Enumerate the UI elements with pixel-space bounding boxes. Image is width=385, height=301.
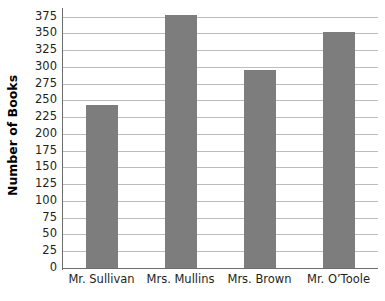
- x-tick-label: Mr. Sullivan: [68, 274, 134, 286]
- y-tick-label: 300: [35, 61, 57, 73]
- x-tick-label: Mr. O’Toole: [307, 274, 370, 286]
- y-tick-label: 0: [50, 262, 57, 274]
- y-axis-title-text: Number of Books: [6, 74, 21, 195]
- x-tick-label: Mrs. Mullins: [146, 274, 214, 286]
- plot-area: [62, 10, 378, 268]
- y-tick-label: 250: [35, 95, 57, 107]
- y-tick-label: 25: [42, 245, 57, 257]
- y-tick-label: 325: [35, 44, 57, 56]
- y-tick-label: 375: [35, 11, 57, 23]
- bar: [244, 70, 276, 268]
- y-tick-label: 275: [35, 78, 57, 90]
- y-axis-tick-labels: 0255075100125150175200225250275300325350…: [26, 0, 60, 301]
- y-tick-label: 100: [35, 195, 57, 207]
- x-axis-tick-labels: Mr. SullivanMrs. MullinsMrs. BrownMr. O’…: [62, 272, 378, 296]
- x-tick-label: Mrs. Brown: [227, 274, 291, 286]
- y-tick-label: 75: [42, 212, 57, 224]
- y-tick-label: 175: [35, 145, 57, 157]
- y-tick-label: 225: [35, 111, 57, 123]
- bar: [165, 15, 197, 268]
- bar: [323, 32, 355, 268]
- y-tick-label: 200: [35, 128, 57, 140]
- y-axis-title: Number of Books: [0, 0, 26, 270]
- bar-chart: Number of Books 025507510012515017520022…: [0, 0, 385, 301]
- y-tick-label: 150: [35, 162, 57, 174]
- y-axis-line: [62, 8, 63, 270]
- x-axis-line: [62, 268, 378, 269]
- y-tick-label: 350: [35, 28, 57, 40]
- y-tick-label: 125: [35, 178, 57, 190]
- gridline: [62, 17, 378, 18]
- y-tick-label: 50: [42, 229, 57, 241]
- bar: [86, 105, 118, 268]
